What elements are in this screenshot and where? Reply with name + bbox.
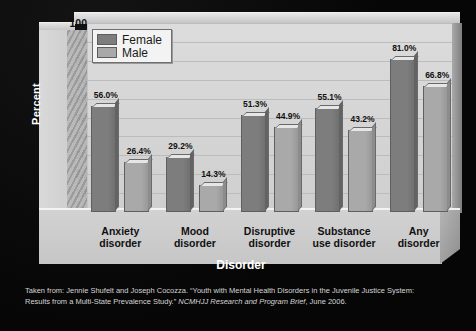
bar-male-2: [274, 127, 299, 212]
bar-side-face: [414, 51, 418, 211]
x-category-label-line: Mood: [174, 225, 216, 237]
bar-value-label: 43.2%: [351, 114, 375, 124]
bar-side-face: [447, 78, 451, 211]
bar-value-label: 81.0%: [392, 43, 416, 53]
bar-side-face: [148, 154, 152, 211]
bar-female-2: [241, 115, 266, 212]
bar-value-label: 56.0%: [94, 90, 118, 100]
bar-side-face: [223, 177, 227, 211]
bar-female-0: [91, 106, 116, 212]
bar-female-4: [390, 59, 415, 212]
legend-swatch-female: [97, 34, 117, 45]
bar-value-label: 44.9%: [276, 111, 300, 121]
bar-side-face: [190, 149, 194, 211]
x-axis-title: Disorder: [22, 258, 460, 272]
x-category-label: Disruptivedisorder: [244, 225, 295, 249]
bar-value-label: 26.4%: [127, 146, 151, 156]
y-axis-depth-hatch: [67, 30, 87, 212]
bar-side-face: [372, 123, 376, 211]
bar-value-label: 66.8%: [425, 70, 449, 80]
legend-label-female: Female: [122, 33, 162, 47]
bar-side-face: [265, 107, 269, 211]
page-background: 0102030405060708090100 56.0%26.4%29.2%14…: [0, 0, 476, 331]
x-category-label-line: disorder: [174, 237, 216, 249]
source-caption: Taken from: Jennie Shufelt and Joseph Co…: [25, 286, 455, 307]
legend-label-male: Male: [122, 46, 148, 60]
x-category-label: Anydisorder: [398, 225, 440, 249]
x-category-label-line: disorder: [398, 237, 440, 249]
x-category-label-line: use disorder: [313, 237, 376, 249]
bar-male-0: [124, 162, 149, 212]
legend-item-female: Female: [97, 33, 162, 46]
caption-line-2-prefix: Results from a Multi-State Prevalence St…: [25, 297, 178, 306]
x-category-label: Anxietydisorder: [99, 225, 141, 249]
bar-value-label: 51.3%: [243, 99, 267, 109]
x-category-label-line: Disruptive: [244, 225, 295, 237]
x-category-label: Substanceuse disorder: [313, 225, 376, 249]
chart-legend: Female Male: [92, 29, 172, 63]
bar-chart-3d: 0102030405060708090100 56.0%26.4%29.2%14…: [22, 12, 460, 274]
y-tick-label: 100: [57, 17, 87, 29]
caption-line-1: Taken from: Jennie Shufelt and Joseph Co…: [25, 286, 455, 297]
y-axis-title: Percent: [30, 74, 42, 134]
x-category-label-line: Anxiety: [99, 225, 141, 237]
legend-swatch-male: [97, 47, 117, 58]
bar-male-3: [348, 130, 373, 212]
bar-female-3: [315, 108, 340, 212]
x-category-label-line: disorder: [99, 237, 141, 249]
bar-value-label: 14.3%: [201, 169, 225, 179]
caption-line-2: Results from a Multi-State Prevalence St…: [25, 297, 455, 308]
x-category-label-line: disorder: [244, 237, 295, 249]
x-category-label-line: Any: [398, 225, 440, 237]
legend-item-male: Male: [97, 46, 162, 59]
caption-publication-title: NCMHJJ Research and Program Brief: [178, 297, 305, 306]
chart-floor-right-bevel: [440, 210, 460, 264]
bar-male-4: [423, 86, 448, 212]
bar-female-1: [166, 157, 191, 212]
bar-side-face: [339, 100, 343, 211]
x-category-label: Mooddisorder: [174, 225, 216, 249]
bar-value-label: 55.1%: [318, 92, 342, 102]
bar-male-1: [199, 185, 224, 212]
bar-side-face: [115, 98, 119, 211]
x-category-label-line: Substance: [313, 225, 376, 237]
bar-value-label: 29.2%: [168, 141, 192, 151]
bar-side-face: [298, 119, 302, 211]
caption-line-2-suffix: , June 2006.: [305, 297, 346, 306]
